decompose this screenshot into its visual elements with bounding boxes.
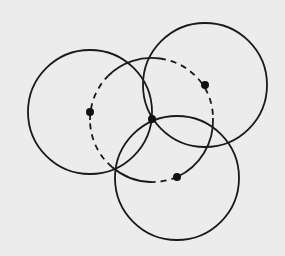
common-intersection-dot (148, 115, 156, 123)
circles-diagram (0, 0, 285, 256)
left-center-dot (86, 108, 94, 116)
bottom-center-dot (173, 173, 181, 181)
top-right-center-dot (201, 81, 209, 89)
